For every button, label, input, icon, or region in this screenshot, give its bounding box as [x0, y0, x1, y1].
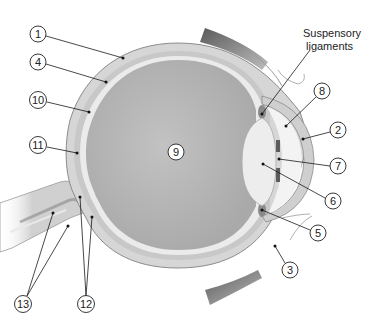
svg-text:Suspensory: Suspensory [303, 27, 362, 39]
svg-text:5: 5 [315, 227, 321, 239]
callout-3: 3 [282, 262, 298, 278]
callout-1: 1 [30, 26, 46, 42]
svg-text:7: 7 [335, 160, 341, 172]
callout-5: 5 [310, 225, 326, 241]
callout-13: 13 [15, 296, 32, 313]
svg-text:12: 12 [80, 298, 92, 310]
svg-text:2: 2 [335, 124, 341, 136]
callout-11: 11 [30, 137, 47, 154]
svg-text:1: 1 [35, 28, 41, 40]
svg-text:6: 6 [330, 195, 336, 207]
callout-7: 7 [330, 158, 346, 174]
callout-12: 12 [78, 296, 95, 313]
svg-text:11: 11 [32, 139, 43, 151]
callout-4: 4 [30, 54, 46, 70]
callout-2: 2 [330, 122, 346, 138]
callout-9: 9 [168, 144, 184, 160]
svg-text:13: 13 [17, 298, 29, 310]
callout-6: 6 [325, 193, 341, 209]
ciliary-body-upper [258, 105, 266, 119]
svg-text:4: 4 [35, 56, 41, 68]
callout-8: 8 [314, 83, 330, 99]
eye-anatomy-diagram: Suspensory ligaments 1 4 10 11 9 8 2 7 6… [0, 0, 373, 328]
svg-text:ligaments: ligaments [306, 40, 354, 52]
suspensory-ligaments-label: Suspensory ligaments [303, 27, 362, 52]
svg-text:3: 3 [287, 264, 293, 276]
svg-text:8: 8 [319, 85, 325, 97]
svg-text:10: 10 [32, 94, 44, 106]
callout-10: 10 [30, 92, 47, 109]
svg-text:9: 9 [173, 146, 179, 158]
